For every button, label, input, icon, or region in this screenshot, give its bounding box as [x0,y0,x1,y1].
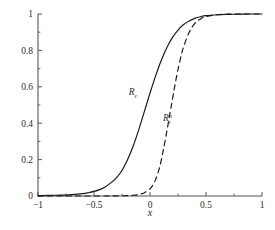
x-tick-label-4: 1 [260,200,265,210]
line-chart-canvas: 00.20.40.60.81 −1−0.500.51 x Rε Rnε [0,0,275,230]
y-tick-label-4: 0.8 [21,46,33,56]
x-axis-title: x [147,207,153,218]
y-tick-label-5: 1 [28,9,33,19]
label-R-epsilon-n: Rnε [162,112,172,125]
y-tick-label-3: 0.6 [21,82,33,92]
x-tick-label-1: −0.5 [85,200,102,210]
curve-annotation-R-epsilon-n: Rnε [162,112,172,125]
x-tick-label-3: 0.5 [200,200,212,210]
chart-figure: 00.20.40.60.81 −1−0.500.51 x Rε Rnε [0,0,275,230]
x-tick-label-0: −1 [33,200,43,210]
y-tick-label-1: 0.2 [21,155,33,165]
y-tick-label-2: 0.4 [21,119,33,129]
